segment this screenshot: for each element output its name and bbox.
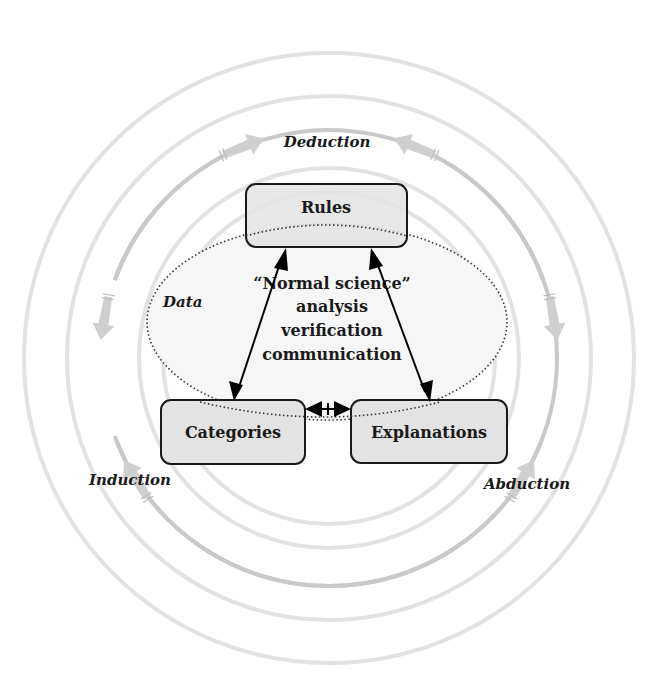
node-explanations-label: Explanations [371, 423, 487, 442]
process-label-abduction: Abduction [482, 475, 570, 493]
node-categories: Categories [161, 400, 305, 464]
center-line-communication: communication [262, 345, 402, 364]
cycle-arrow-to-deduction-right [390, 128, 441, 166]
cycle-arrow-to-deduction-left [217, 128, 268, 166]
inference-cycle-diagram: Data “Normal science” analysis verificat… [0, 0, 660, 678]
cycle-arrow-to-induction-upper [90, 293, 120, 342]
node-rules-label: Rules [301, 198, 351, 217]
node-rules: Rules [246, 184, 407, 247]
data-region-label: Data [162, 293, 202, 311]
process-label-deduction: Deduction [283, 133, 371, 151]
node-explanations: Explanations [351, 400, 507, 463]
center-line-analysis: analysis [296, 297, 368, 316]
node-categories-label: Categories [185, 423, 281, 442]
cycle-arrow-to-abduction-upper [539, 293, 569, 342]
center-line-verification: verification [280, 321, 383, 340]
process-label-induction: Induction [88, 471, 171, 489]
